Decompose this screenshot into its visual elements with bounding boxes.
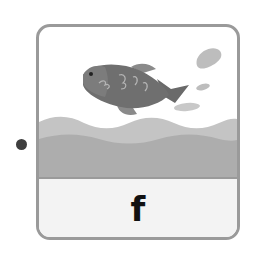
- bullet-dot: [16, 139, 27, 150]
- fish-illustration: [39, 27, 237, 177]
- flashcard[interactable]: f: [36, 24, 240, 240]
- splash-drop-small: [195, 82, 210, 91]
- splash-drop-bottom: [174, 102, 201, 112]
- splash-drop-large: [196, 48, 221, 68]
- letter-panel: f: [39, 177, 237, 237]
- fish-eye: [89, 72, 93, 76]
- letter-label: f: [131, 192, 146, 226]
